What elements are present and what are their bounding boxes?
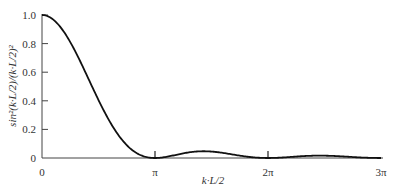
chart: 00.20.40.60.81.0 0π2π3π k·L/2 sin²(k·L/2… — [0, 0, 393, 194]
x-tick-label: 0 — [39, 166, 45, 178]
x-tick-label: 2π — [262, 166, 274, 178]
y-tick-label: 1.0 — [22, 9, 36, 21]
y-axis-label: sin²(k·L/2)/(k·L/2)² — [6, 44, 19, 126]
axes — [42, 14, 383, 158]
x-axis-label: k·L/2 — [202, 174, 225, 186]
y-tick-label: 0 — [31, 152, 37, 164]
data-line — [42, 15, 381, 158]
x-tick-label: 3π — [375, 166, 387, 178]
y-tick-label: 0.2 — [22, 123, 36, 135]
x-tick-label: π — [152, 166, 158, 178]
y-ticks: 00.20.40.60.81.0 — [22, 9, 48, 164]
y-tick-label: 0.4 — [22, 95, 36, 107]
y-tick-label: 0.6 — [22, 66, 36, 78]
y-tick-label: 0.8 — [22, 38, 36, 50]
